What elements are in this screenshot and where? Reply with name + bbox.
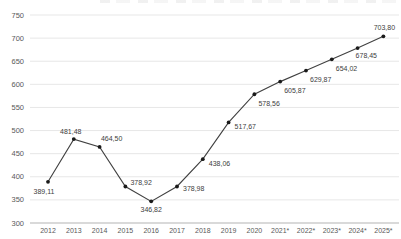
data-point-label: 605,87 [284, 87, 306, 94]
y-tick-label: 450 [11, 149, 24, 158]
x-tick-label: 2024* [348, 227, 367, 234]
y-tick-label: 300 [11, 219, 24, 228]
data-point [356, 46, 360, 50]
data-point [330, 57, 334, 61]
x-tick-label: 2018 [195, 227, 211, 234]
x-tick-label: 2020 [247, 227, 263, 234]
y-tick-label: 600 [11, 80, 24, 89]
data-point-label: 378,98 [183, 185, 205, 192]
y-tick-label: 750 [11, 11, 24, 20]
data-point [98, 145, 102, 149]
x-tick-label: 2023* [323, 227, 342, 234]
cropped-text-artifact [100, 0, 400, 3]
data-point-label: 578,56 [258, 100, 280, 107]
line-chart: 7507006506005505004504003503002012201320… [0, 0, 401, 239]
data-point [201, 157, 205, 161]
x-tick-label: 2012 [40, 227, 56, 234]
data-point [72, 137, 76, 141]
x-tick-label: 2015 [118, 227, 134, 234]
data-point-label: 464,50 [101, 135, 123, 142]
data-point [227, 120, 231, 124]
x-tick-label: 2021* [271, 227, 290, 234]
x-tick-label: 2014 [92, 227, 108, 234]
x-tick-label: 2016 [143, 227, 159, 234]
data-point-label: 703,80 [374, 24, 396, 31]
data-point [124, 185, 128, 189]
data-point [253, 92, 257, 96]
data-point [175, 185, 179, 189]
data-point-label: 517,67 [235, 123, 257, 130]
data-point-label: 654,02 [336, 65, 358, 72]
x-tick-label: 2017 [169, 227, 185, 234]
data-point-label: 346,82 [140, 206, 162, 213]
y-tick-label: 400 [11, 172, 24, 181]
chart-canvas: 7507006506005505004504003503002012201320… [0, 0, 401, 239]
data-point-label: 389,11 [34, 188, 55, 195]
data-point [149, 199, 153, 203]
data-point-label: 438,06 [209, 160, 231, 167]
y-tick-label: 550 [11, 103, 24, 112]
y-tick-label: 500 [11, 126, 24, 135]
y-tick-label: 350 [11, 195, 24, 204]
y-tick-label: 650 [11, 57, 24, 66]
data-point-label: 378,92 [130, 179, 152, 186]
x-tick-label: 2013 [66, 227, 82, 234]
x-tick-label: 2019 [221, 227, 237, 234]
data-point-label: 629,87 [310, 76, 332, 83]
data-point [304, 69, 308, 73]
x-tick-label: 2025* [374, 227, 393, 234]
data-point-label: 678,45 [356, 52, 378, 59]
x-tick-label: 2022* [297, 227, 316, 234]
data-point-label: 481,48 [60, 128, 82, 135]
data-point [382, 34, 386, 38]
y-tick-label: 700 [11, 34, 24, 43]
data-point [46, 180, 50, 184]
data-point [278, 80, 282, 84]
